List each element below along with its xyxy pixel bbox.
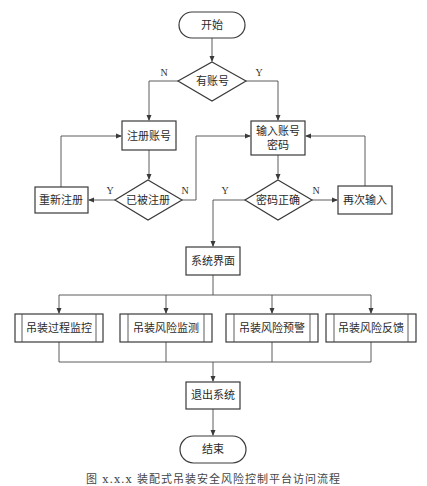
node-password-correct: 密码正确 xyxy=(245,180,312,220)
node-password-correct-label: 密码正确 xyxy=(256,193,300,207)
node-module-3-label: 吊装风险预警 xyxy=(239,321,305,335)
node-input-credentials-label-line1: 输入账号 xyxy=(256,124,300,138)
edge-re-register-loop xyxy=(61,136,121,187)
node-exit-label: 退出系统 xyxy=(191,388,235,402)
node-already-registered-label: 已被注册 xyxy=(126,193,170,207)
label-registered-yes: Y xyxy=(106,185,113,196)
node-already-registered: 已被注册 xyxy=(115,180,182,220)
node-module-1-label: 吊装过程监控 xyxy=(26,321,92,335)
node-module-1: 吊装过程监控 xyxy=(15,314,103,342)
node-system-ui-label: 系统界面 xyxy=(191,255,235,268)
node-start: 开始 xyxy=(179,12,245,38)
node-register-label: 注册账号 xyxy=(127,129,171,143)
figure-caption: 图 x.x.x 装配式吊装安全风险控制平台访问流程 xyxy=(0,470,427,486)
node-register: 注册账号 xyxy=(122,121,176,150)
node-module-2: 吊装风险监测 xyxy=(120,314,212,342)
node-start-label: 开始 xyxy=(201,18,223,32)
node-module-4: 吊装风险反馈 xyxy=(326,314,416,342)
label-has-account-no: N xyxy=(160,67,167,78)
node-end: 结束 xyxy=(180,436,246,463)
edge-re-input-loop xyxy=(306,136,365,186)
node-module-4-label: 吊装风险反馈 xyxy=(338,321,404,335)
node-module-3: 吊装风险预警 xyxy=(226,314,318,342)
node-has-account: 有账号 xyxy=(178,62,246,101)
node-system-ui: 系统界面 xyxy=(186,247,240,275)
node-input-credentials: 输入账号 密码 xyxy=(251,121,305,155)
node-has-account-label: 有账号 xyxy=(196,74,229,88)
edge-has-account-yes xyxy=(246,81,278,120)
node-input-credentials-label-line2: 密码 xyxy=(267,138,289,152)
label-has-account-yes: Y xyxy=(255,67,262,78)
node-re-register: 重新注册 xyxy=(35,187,88,213)
node-exit: 退出系统 xyxy=(186,382,240,409)
node-re-input-label: 再次输入 xyxy=(343,193,387,207)
node-re-register-label: 重新注册 xyxy=(39,193,83,207)
edge-correct-yes xyxy=(213,200,245,246)
edge-has-account-no xyxy=(149,81,178,120)
node-end-label: 结束 xyxy=(202,443,224,456)
node-module-2-label: 吊装风险监测 xyxy=(133,321,199,335)
node-re-input: 再次输入 xyxy=(338,186,392,214)
label-correct-yes: Y xyxy=(221,185,228,196)
edge-registered-no xyxy=(182,136,250,200)
label-correct-no: N xyxy=(312,185,319,196)
label-registered-no: N xyxy=(181,185,188,196)
